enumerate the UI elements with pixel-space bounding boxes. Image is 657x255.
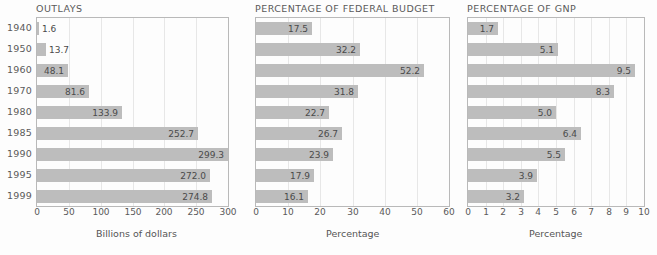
chart-title: OUTLAYS [36, 3, 83, 14]
chart-title: PERCENTAGE OF FEDERAL BUDGET [255, 3, 435, 14]
x-tick-label: 300 [219, 207, 236, 217]
x-tick-label: 60 [443, 207, 454, 217]
bar-value-label: 16.1 [284, 190, 304, 204]
bar-row[interactable]: 16.1 [256, 190, 449, 203]
year-label: 1960 [7, 64, 32, 75]
bar[interactable] [468, 85, 614, 98]
bar-row[interactable]: 17.5 [256, 22, 449, 35]
bar-row[interactable]: 3.2 [468, 190, 644, 203]
bar-value-label: 252.7 [168, 127, 194, 141]
bar[interactable] [468, 64, 635, 77]
bar-row[interactable]: 48.1 [37, 64, 228, 77]
bar-value-label: 274.8 [182, 190, 208, 204]
bar-row[interactable]: 5.5 [468, 148, 644, 161]
year-label: 1950 [7, 43, 32, 54]
bar-row[interactable]: 6.4 [468, 127, 644, 140]
plot-area: 1.613.748.181.6133.9252.7299.3272.0274.8 [36, 17, 229, 207]
bar-value-label: 9.5 [617, 64, 631, 78]
bar-value-label: 52.2 [400, 64, 420, 78]
x-axis-ticks: 050100150200250300 [36, 207, 229, 223]
year-label: 1940 [7, 22, 32, 33]
bar-value-label: 81.6 [65, 85, 85, 99]
bar-row[interactable]: 9.5 [468, 64, 644, 77]
bar[interactable] [256, 64, 424, 77]
x-tick-label: 8 [606, 207, 612, 217]
bar-row[interactable]: 1.7 [468, 22, 644, 35]
chart-title: PERCENTAGE OF GNP [467, 3, 576, 14]
x-tick-label: 1 [483, 207, 489, 217]
x-tick-label: 0 [465, 207, 471, 217]
x-axis-label: Billions of dollars [96, 228, 177, 239]
bar-row[interactable]: 22.7 [256, 106, 449, 119]
bar-row[interactable]: 252.7 [37, 127, 228, 140]
bar[interactable] [37, 43, 46, 56]
bar-row[interactable]: 26.7 [256, 127, 449, 140]
bar-row[interactable]: 274.8 [37, 190, 228, 203]
year-label: 1970 [7, 85, 32, 96]
year-label: 1995 [7, 169, 32, 180]
x-tick-label: 5 [553, 207, 559, 217]
bar[interactable] [37, 22, 39, 35]
bar-row[interactable]: 31.8 [256, 85, 449, 98]
plot-area: 1.75.19.58.35.06.45.53.93.2 [467, 17, 645, 207]
plot-area: 17.532.252.231.822.726.723.917.916.1 [255, 17, 450, 207]
year-label: 1990 [7, 148, 32, 159]
bar-value-label: 272.0 [180, 169, 206, 183]
x-tick-label: 30 [347, 207, 358, 217]
x-axis-label: Percentage [326, 228, 379, 239]
x-tick-label: 2 [500, 207, 506, 217]
bar-value-label: 17.5 [288, 22, 308, 36]
bar-row[interactable]: 299.3 [37, 148, 228, 161]
bar-row[interactable]: 32.2 [256, 43, 449, 56]
chart-panel-gnp: PERCENTAGE OF GNP 1.75.19.58.35.06.45.53… [467, 0, 645, 255]
bar-value-label: 26.7 [318, 127, 338, 141]
bar-value-label: 133.9 [92, 106, 118, 120]
bar-value-label: 3.2 [506, 190, 520, 204]
chart-panel-federal-budget: PERCENTAGE OF FEDERAL BUDGET 17.532.252.… [255, 0, 450, 255]
x-axis-ticks: 0102030405060 [255, 207, 450, 223]
x-tick-label: 40 [379, 207, 390, 217]
x-axis-ticks: 012345678910 [467, 207, 645, 223]
bar-row[interactable]: 272.0 [37, 169, 228, 182]
year-label: 1985 [7, 127, 32, 138]
gridline [228, 18, 229, 206]
x-tick-label: 4 [535, 207, 541, 217]
x-tick-label: 3 [518, 207, 524, 217]
bar-row[interactable]: 23.9 [256, 148, 449, 161]
chart-panel-outlays: OUTLAYS 1.613.748.181.6133.9252.7299.327… [36, 0, 229, 255]
x-tick-label: 10 [638, 207, 649, 217]
bar-value-label: 1.7 [480, 22, 494, 36]
bar-value-label: 3.9 [519, 169, 533, 183]
bar-row[interactable]: 52.2 [256, 64, 449, 77]
year-label: 1999 [7, 190, 32, 201]
bar-value-label: 17.9 [290, 169, 310, 183]
x-tick-label: 150 [124, 207, 141, 217]
bar-value-label: 8.3 [596, 85, 610, 99]
x-tick-label: 200 [155, 207, 172, 217]
bar-row[interactable]: 17.9 [256, 169, 449, 182]
bar-row[interactable]: 13.7 [37, 43, 228, 56]
figure-canvas: 1940 1950 1960 1970 1980 1985 1990 1995 … [0, 0, 657, 255]
x-axis-label: Percentage [529, 228, 582, 239]
gridline [644, 18, 645, 206]
bar-value-label: 5.0 [538, 106, 552, 120]
bar-value-label: 6.4 [563, 127, 577, 141]
bar-row[interactable]: 5.0 [468, 106, 644, 119]
x-tick-label: 0 [253, 207, 259, 217]
bar-value-label: 1.6 [42, 22, 56, 36]
x-tick-label: 0 [34, 207, 40, 217]
bar-value-label: 22.7 [305, 106, 325, 120]
bar-value-label: 299.3 [198, 148, 224, 162]
bar-row[interactable]: 81.6 [37, 85, 228, 98]
bar-row[interactable]: 3.9 [468, 169, 644, 182]
x-tick-label: 6 [571, 207, 577, 217]
gridline [449, 18, 450, 206]
bar-value-label: 5.1 [540, 43, 554, 57]
year-label: 1980 [7, 106, 32, 117]
x-tick-label: 50 [411, 207, 422, 217]
bar-row[interactable]: 1.6 [37, 22, 228, 35]
bar-row[interactable]: 8.3 [468, 85, 644, 98]
year-axis-labels: 1940 1950 1960 1970 1980 1985 1990 1995 … [0, 17, 34, 207]
bar-row[interactable]: 5.1 [468, 43, 644, 56]
bar-row[interactable]: 133.9 [37, 106, 228, 119]
